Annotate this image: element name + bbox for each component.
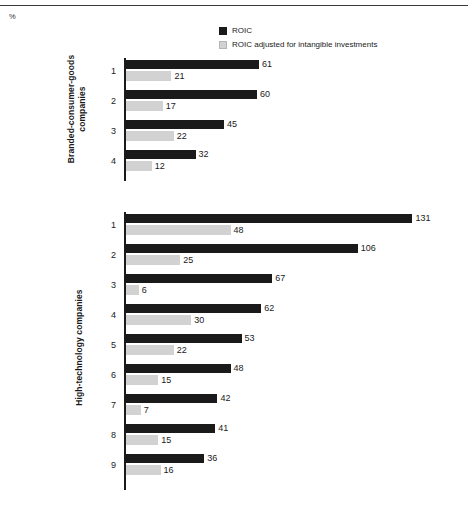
bar-roic-adjusted: 7 bbox=[126, 405, 141, 415]
bar-value-roic-adjusted: 17 bbox=[166, 102, 176, 112]
bar-roic: 60 bbox=[126, 90, 257, 100]
bar-row-index: 2 bbox=[100, 250, 116, 260]
bar-row-index: 9 bbox=[100, 460, 116, 470]
bar-value-roic: 53 bbox=[245, 334, 255, 344]
bar-row-index: 6 bbox=[100, 370, 116, 380]
legend-label-roic: ROIC bbox=[232, 26, 252, 36]
bar-value-roic-adjusted: 48 bbox=[234, 226, 244, 236]
legend-swatch-roic-icon bbox=[219, 27, 227, 35]
bar-row-index: 1 bbox=[100, 220, 116, 230]
bar-value-roic: 32 bbox=[199, 150, 209, 160]
bar-roic: 32 bbox=[126, 150, 196, 160]
bar-value-roic-adjusted: 6 bbox=[142, 286, 147, 296]
bar-row-index: 3 bbox=[100, 280, 116, 290]
panel-label-line-1: High-technology companies bbox=[74, 238, 85, 458]
bar-value-roic: 42 bbox=[220, 394, 230, 404]
bar-row-index: 3 bbox=[100, 126, 116, 136]
bar-row-index: 7 bbox=[100, 400, 116, 410]
bar-roic-adjusted: 22 bbox=[126, 131, 174, 141]
bar-value-roic-adjusted: 12 bbox=[155, 162, 165, 172]
bar-roic: 62 bbox=[126, 304, 262, 314]
bar-roic: 42 bbox=[126, 394, 218, 404]
bar-value-roic-adjusted: 21 bbox=[174, 72, 184, 82]
chart-legend: ROIC ROIC adjusted for intangible invest… bbox=[219, 26, 377, 50]
legend-label-roic-adjusted: ROIC adjusted for intangible investments bbox=[232, 40, 377, 50]
bar-roic: 53 bbox=[126, 334, 242, 344]
bar-value-roic: 61 bbox=[262, 60, 272, 70]
bar-roic: 45 bbox=[126, 120, 225, 130]
bar-value-roic-adjusted: 22 bbox=[177, 346, 187, 356]
bar-roic-adjusted: 6 bbox=[126, 285, 139, 295]
bar-roic-adjusted: 17 bbox=[126, 101, 163, 111]
panel-label-high-technology: High-technology companies bbox=[74, 238, 85, 458]
bar-value-roic-adjusted: 15 bbox=[161, 376, 171, 386]
bar-roic: 36 bbox=[126, 454, 205, 464]
bar-row-index: 4 bbox=[100, 156, 116, 166]
bar-roic: 61 bbox=[126, 60, 260, 70]
bar-value-roic-adjusted: 22 bbox=[177, 132, 187, 142]
panel-label-line-1: Branded-consumer-goods bbox=[66, 29, 77, 189]
bar-roic: 106 bbox=[126, 244, 358, 254]
bar-row-index: 1 bbox=[100, 66, 116, 76]
bar-roic-adjusted: 15 bbox=[126, 375, 159, 385]
bar-row-index: 8 bbox=[100, 430, 116, 440]
bar-value-roic-adjusted: 7 bbox=[144, 406, 149, 416]
panel-label-line-2: companies bbox=[77, 29, 88, 189]
bar-roic-adjusted: 22 bbox=[126, 345, 174, 355]
bar-roic-adjusted: 48 bbox=[126, 225, 231, 235]
bar-value-roic: 131 bbox=[415, 214, 430, 224]
bar-value-roic: 48 bbox=[234, 364, 244, 374]
unit-label: % bbox=[9, 12, 16, 21]
bar-roic-adjusted: 30 bbox=[126, 315, 192, 325]
bar-roic-adjusted: 21 bbox=[126, 71, 172, 81]
bar-value-roic-adjusted: 30 bbox=[194, 316, 204, 326]
legend-item-roic-adjusted: ROIC adjusted for intangible investments bbox=[219, 40, 377, 50]
bar-value-roic: 62 bbox=[264, 304, 274, 314]
legend-swatch-roic-adjusted-icon bbox=[219, 41, 227, 49]
bar-roic: 67 bbox=[126, 274, 273, 284]
bar-value-roic-adjusted: 25 bbox=[183, 256, 193, 266]
bar-value-roic-adjusted: 16 bbox=[164, 466, 174, 476]
bar-roic-adjusted: 15 bbox=[126, 435, 159, 445]
panel-label-branded-consumer-goods: Branded-consumer-goods companies bbox=[66, 29, 88, 189]
bar-roic-adjusted: 12 bbox=[126, 161, 152, 171]
bar-roic: 48 bbox=[126, 364, 231, 374]
bar-value-roic: 60 bbox=[260, 90, 270, 100]
bar-row-index: 2 bbox=[100, 96, 116, 106]
bar-roic-adjusted: 25 bbox=[126, 255, 181, 265]
bar-row-index: 5 bbox=[100, 340, 116, 350]
legend-item-roic: ROIC bbox=[219, 26, 377, 36]
bar-value-roic: 67 bbox=[275, 274, 285, 284]
bar-roic-adjusted: 16 bbox=[126, 465, 161, 475]
top-divider-rule bbox=[0, 5, 468, 6]
bar-value-roic-adjusted: 15 bbox=[161, 436, 171, 446]
bar-row-index: 4 bbox=[100, 310, 116, 320]
bar-value-roic: 45 bbox=[227, 120, 237, 130]
bar-value-roic: 36 bbox=[207, 454, 217, 464]
bar-roic: 131 bbox=[126, 214, 413, 224]
bar-roic: 41 bbox=[126, 424, 216, 434]
bar-value-roic: 41 bbox=[218, 424, 228, 434]
bar-value-roic: 106 bbox=[361, 244, 376, 254]
